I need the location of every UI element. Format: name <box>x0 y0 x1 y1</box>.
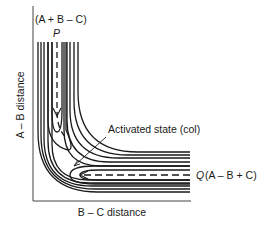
activated-state-label: Activated state (col) <box>108 123 200 135</box>
product-species-label: (A – B + C) <box>205 169 257 181</box>
reactant-species-label: (A + B – C) <box>35 13 87 25</box>
product-point-label: Q <box>196 169 204 181</box>
inner-contour <box>78 42 190 152</box>
inner-contour <box>74 42 190 155</box>
x-axis-label: B – C distance <box>78 206 146 218</box>
outer-contour <box>52 42 190 180</box>
contour-lines <box>38 42 190 192</box>
reactant-point-label: P <box>53 27 60 39</box>
inner-contour <box>70 42 190 158</box>
pes-contour-diagram: (A + B – C) P Activated state (col) Q (A… <box>0 0 263 229</box>
y-axis-label: A – B distance <box>14 71 26 138</box>
inner-contour <box>67 42 190 162</box>
